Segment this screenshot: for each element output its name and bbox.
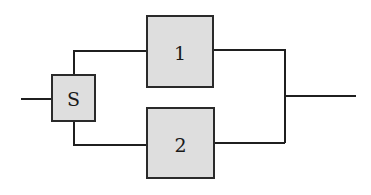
wire-s-to-2 [74,121,147,145]
block-1-label: 1 [174,42,186,64]
block-s: S [52,75,95,121]
block-2-label: 2 [174,134,186,156]
block-1: 1 [147,16,213,87]
block-s-label: S [67,88,80,110]
wire-s-to-1 [74,51,147,75]
reliability-diagram: S 1 2 [0,0,371,195]
block-2: 2 [147,108,214,178]
wire-1-to-output [213,50,285,143]
